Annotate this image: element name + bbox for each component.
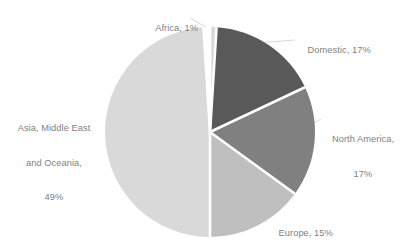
pie-slice-asia-middle-east-and-oceania[interactable] bbox=[105, 27, 210, 237]
pie-label-domestic: Domestic, 17% bbox=[297, 33, 401, 68]
pie-label-asia: Asia, Middle East and Oceania, 49% bbox=[2, 100, 106, 227]
pie-label-africa-text: Africa, 1% bbox=[155, 23, 198, 33]
pie-label-asia-line1: Asia, Middle East bbox=[2, 123, 106, 135]
pie-label-domestic-text: Domestic, 17% bbox=[308, 45, 371, 55]
pie-label-europe-text: Europe, 15% bbox=[279, 228, 333, 238]
pie-label-asia-line3: 49% bbox=[2, 192, 106, 204]
pie-label-africa: Africa, 1% bbox=[112, 11, 198, 46]
pie-label-north-america-line1: North America, bbox=[322, 134, 404, 146]
pie-chart: Africa, 1% Domestic, 17% North America, … bbox=[0, 0, 406, 246]
pie-label-europe: Europe, 15% bbox=[268, 216, 376, 246]
pie-label-north-america: North America, 17% bbox=[322, 111, 404, 203]
pie-label-north-america-line2: 17% bbox=[322, 169, 404, 181]
pie-label-asia-line2: and Oceania, bbox=[2, 158, 106, 170]
